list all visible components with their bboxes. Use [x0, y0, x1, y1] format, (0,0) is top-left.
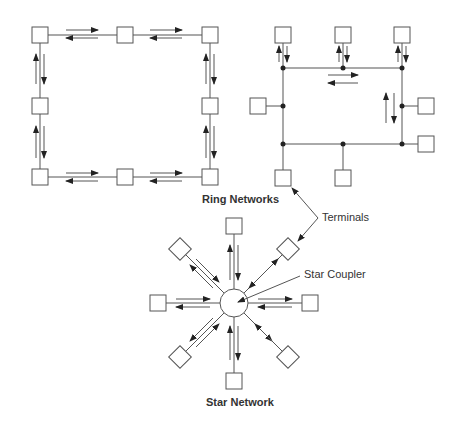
terminal-box [275, 27, 291, 43]
terminal-box [202, 169, 218, 185]
terminal-box [32, 98, 48, 114]
star-coupler-label: Star Coupler [304, 268, 366, 280]
ring-network-right [266, 43, 418, 170]
terminal-box [250, 98, 266, 114]
terminal-box [275, 170, 291, 186]
terminal-box [117, 169, 133, 185]
terminal-box [302, 295, 318, 311]
terminal-box [32, 27, 48, 43]
ring-network-left [36, 30, 214, 181]
star-coupler-circle [220, 289, 248, 317]
terminal-box [150, 295, 166, 311]
network-topology-diagram [0, 0, 459, 427]
terminal-box [226, 218, 242, 234]
star-network-label: Star Network [206, 396, 274, 408]
terminal-box [335, 170, 351, 186]
terminal-box [394, 27, 410, 43]
terminal-box [226, 373, 242, 389]
ring-left-terminals [32, 27, 218, 185]
terminal-box [202, 27, 218, 43]
terminal-box [32, 169, 48, 185]
terminals-callout [292, 188, 318, 241]
terminal-box [117, 27, 133, 43]
terminal-box [418, 136, 434, 152]
terminal-box [202, 98, 218, 114]
terminal-box [335, 27, 351, 43]
terminals-label: Terminals [322, 211, 369, 223]
terminal-box [418, 98, 434, 114]
ring-networks-label: Ring Networks [202, 193, 279, 205]
